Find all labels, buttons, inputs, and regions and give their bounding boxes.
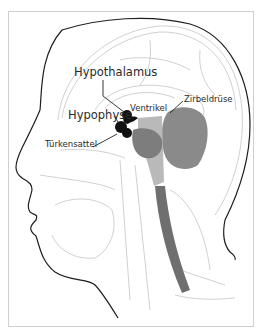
head-illustration: [0, 0, 263, 335]
label-hypophyse: Hypophyse: [68, 110, 132, 122]
brainstem: [132, 116, 164, 186]
label-zirbeldruese: Zirbeldrüse: [184, 95, 233, 104]
cerebellum: [162, 107, 208, 169]
label-ventrikel: Ventrikel: [130, 104, 167, 113]
label-hypothalamus: Hypothalamus: [74, 67, 157, 79]
head-outline: [16, 18, 250, 318]
label-tuerkensattel: Türkensattel: [45, 140, 97, 149]
